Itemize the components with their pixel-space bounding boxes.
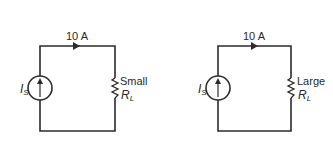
circuit-small-load [28, 42, 118, 131]
load-label: RL [121, 88, 134, 103]
load-label: RL [298, 88, 311, 103]
load-size-label: Small [120, 75, 148, 87]
current-arrow-icon [73, 42, 80, 50]
resistor-icon [112, 78, 118, 98]
current-arrow-icon [251, 42, 258, 50]
load-size-label: Large [297, 75, 325, 87]
wire-return [218, 98, 291, 131]
resistor-icon [288, 78, 294, 98]
wire-loop [40, 46, 115, 78]
wire-loop [218, 46, 291, 78]
circuit-diagrams: 10 A IS Small RL 10 A IS Large RL [0, 0, 333, 143]
current-label: 10 A [243, 30, 266, 42]
current-label: 10 A [66, 30, 89, 42]
wire-return [40, 98, 115, 131]
circuit-large-load [206, 42, 294, 131]
